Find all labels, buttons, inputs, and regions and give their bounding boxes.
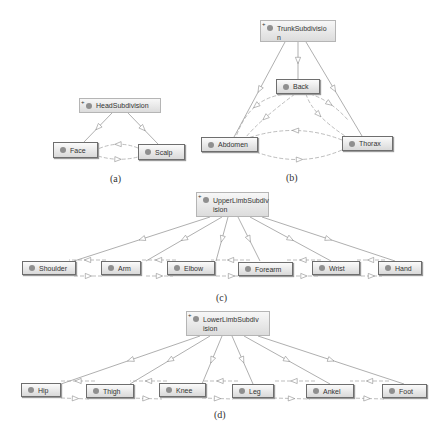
edge-thorax-abdomen — [248, 130, 342, 140]
node-foot[interactable]: Foot — [382, 384, 427, 398]
node-ankel[interactable]: Ankel — [306, 384, 354, 398]
edge-upperlimb-child-4-arrow — [287, 235, 294, 240]
node-thigh[interactable]: Thigh — [86, 384, 134, 398]
class-icon — [385, 265, 391, 271]
edge-back-abdomen — [236, 94, 288, 137]
edge-upper-back-2-arrow — [227, 257, 233, 262]
class-icon — [145, 149, 151, 155]
edge-upperlimb-child-1-arrow — [181, 235, 188, 240]
node-label: LowerLimbSubdiv ision — [203, 315, 259, 333]
edge-trunk-thorax-arrow — [330, 85, 335, 92]
node-knee[interactable]: Knee — [159, 383, 206, 397]
edge-lowerlimb-child-0-arrow — [128, 357, 135, 362]
node-shoulder[interactable]: Shoulder — [22, 261, 76, 275]
node-label: Hand — [395, 265, 412, 272]
node-hand[interactable]: Hand — [378, 261, 422, 275]
edge-upper-fwd-0-arrow — [85, 273, 91, 278]
class-icon — [166, 387, 172, 393]
edge-back-thorax-2-arrow — [325, 100, 332, 106]
edge-lower-fwd-2-arrow — [214, 396, 221, 401]
edge-back-abdomen-arrow — [254, 102, 261, 108]
class-icon — [86, 103, 92, 109]
node-arm[interactable]: Arm — [101, 261, 141, 275]
class-icon — [193, 316, 199, 322]
class-icon — [349, 141, 355, 147]
class-icon — [239, 388, 245, 394]
node-trunk-subdivision[interactable]: + TrunkSubdivisio n — [260, 20, 336, 42]
edge-lowerlimb-child-1-arrow — [167, 356, 174, 361]
class-icon — [389, 388, 395, 394]
expand-icon[interactable]: + — [188, 312, 192, 318]
node-upper-limb-subdivision[interactable]: + UpperLimbSubdiv ision — [196, 192, 269, 217]
edge-lowerlimb-child-3-arrow — [239, 356, 244, 363]
edge-scalp-face-arrow — [115, 142, 122, 147]
class-icon — [203, 197, 209, 203]
node-label: Abdomen — [218, 141, 248, 148]
edge-lower-fwd-3-arrow — [288, 396, 295, 401]
edge-lowerlimb-child-4-arrow — [283, 356, 290, 361]
class-icon — [208, 142, 214, 148]
edge-abdomen-thorax-arrow — [296, 157, 303, 162]
edge-upper-back-4-arrow — [367, 257, 373, 262]
expand-icon[interactable]: + — [262, 21, 266, 27]
edge-back-thorax — [306, 94, 345, 136]
caption-d: (d) — [214, 409, 226, 420]
class-icon — [313, 388, 319, 394]
node-head-subdivision[interactable]: + HeadSubdivision — [79, 98, 161, 113]
edge-upper-fwd-4-arrow — [368, 273, 374, 278]
edge-trunk-back-arrow — [295, 57, 300, 63]
edge-lowerlimb-child-2-arrow — [211, 356, 216, 363]
node-label: Thigh — [103, 388, 121, 395]
edge-lower-back-1-arrow — [145, 378, 151, 383]
expand-icon[interactable]: + — [81, 99, 85, 105]
caption-a: (a) — [110, 173, 121, 184]
edge-lower-fwd-4-arrow — [364, 396, 371, 401]
node-abdomen[interactable]: Abdomen — [201, 137, 258, 152]
node-label: Shoulder — [39, 265, 67, 272]
edge-upperlimb-child-0-arrow — [139, 236, 146, 241]
node-face[interactable]: Face — [53, 142, 98, 158]
edge-upper-fwd-1-arrow — [156, 273, 162, 278]
class-icon — [60, 147, 66, 153]
node-label: Ankel — [323, 388, 341, 395]
node-label: Back — [293, 83, 309, 90]
class-icon — [93, 388, 99, 394]
node-hip[interactable]: Hip — [21, 383, 61, 397]
node-label: Scalp — [155, 149, 173, 156]
node-label: HeadSubdivision — [96, 101, 149, 110]
class-icon — [28, 387, 34, 393]
class-icon — [29, 265, 35, 271]
class-icon — [319, 265, 325, 271]
class-icon — [283, 84, 289, 90]
node-scalp[interactable]: Scalp — [138, 144, 185, 160]
node-label: Elbow — [184, 265, 203, 272]
edge-upper-back-0-arrow — [84, 257, 90, 262]
node-back[interactable]: Back — [276, 79, 320, 94]
node-label: Knee — [176, 387, 192, 394]
edge-lowerlimb-child-5-arrow — [327, 357, 334, 362]
edge-lower-back-4-arrow — [366, 378, 372, 383]
node-label: TrunkSubdivisio n — [277, 24, 327, 42]
node-wrist[interactable]: Wrist — [312, 261, 360, 275]
caption-b: (b) — [286, 172, 298, 183]
edges-layer — [0, 0, 447, 442]
edge-upperlimb-child-5-arrow — [325, 236, 332, 241]
edge-face-scalp-arrow — [115, 157, 122, 162]
edge-thorax-abdomen-arrow — [292, 128, 299, 133]
edge-upper-fwd-2-arrow — [228, 273, 234, 278]
edge-upperlimb-child-2-arrow — [220, 235, 225, 242]
class-icon — [267, 25, 273, 31]
node-leg[interactable]: Leg — [232, 384, 274, 398]
node-thorax[interactable]: Thorax — [342, 136, 393, 151]
node-forearm[interactable]: Forearm — [238, 262, 293, 276]
edge-upper-back-3-arrow — [300, 257, 306, 262]
edge-back-thorax-2 — [310, 94, 348, 120]
node-elbow[interactable]: Elbow — [167, 261, 215, 275]
node-lower-limb-subdivision[interactable]: + LowerLimbSubdiv ision — [186, 311, 270, 336]
node-label: Face — [70, 147, 86, 154]
expand-icon[interactable]: + — [198, 193, 202, 199]
edge-lower-back-3-arrow — [291, 378, 297, 383]
node-label: UpperLimbSubdiv ision — [213, 196, 269, 214]
edge-upper-fwd-3-arrow — [301, 273, 307, 278]
node-label: Leg — [249, 388, 261, 395]
